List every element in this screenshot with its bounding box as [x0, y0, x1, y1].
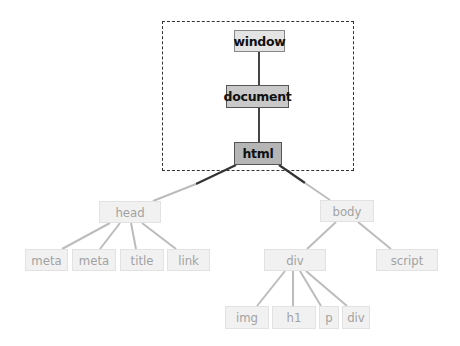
- node-meta-2: meta: [72, 249, 116, 271]
- edge-body-script: [358, 222, 391, 249]
- node-div-inner: div: [342, 306, 370, 329]
- node-document: document: [226, 85, 289, 108]
- node-link: link: [167, 249, 210, 271]
- node-html: html: [234, 142, 282, 165]
- edge-div-div: [306, 271, 347, 306]
- node-head: head: [99, 201, 161, 223]
- edge-head-link: [142, 223, 176, 249]
- node-img: img: [225, 306, 269, 329]
- dom-tree-diagram: window document html head body meta meta…: [0, 0, 460, 346]
- edge-div-p: [300, 271, 321, 306]
- node-meta-1: meta: [25, 249, 68, 271]
- edge-html-head-light: [153, 184, 196, 201]
- node-window: window: [234, 30, 285, 52]
- edge-head-title: [131, 223, 136, 249]
- edge-html-body-light: [305, 183, 330, 200]
- node-div: div: [264, 249, 326, 271]
- edge-div-img: [257, 271, 285, 306]
- node-body: body: [320, 200, 374, 222]
- node-script: script: [376, 249, 438, 271]
- node-h1: h1: [272, 306, 316, 329]
- node-p: p: [319, 306, 339, 329]
- edge-body-div: [307, 222, 336, 249]
- node-title: title: [120, 249, 164, 271]
